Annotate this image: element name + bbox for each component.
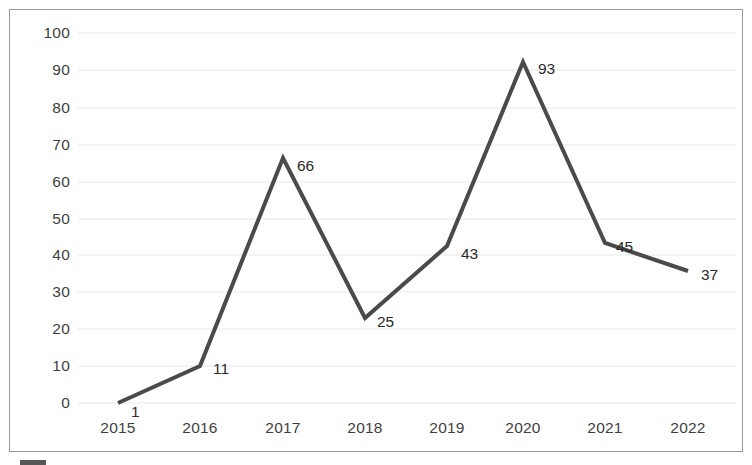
data-point-label: 25 (377, 313, 394, 331)
data-point-label: 93 (538, 60, 555, 78)
y-axis-tick-label: 100 (18, 24, 70, 42)
y-axis-tick-label: 50 (18, 210, 70, 228)
y-axis-tick-label: 30 (18, 283, 70, 301)
x-axis-tick-label: 2022 (670, 419, 705, 437)
y-axis-tick-label: 40 (18, 246, 70, 264)
data-point-label: 11 (213, 360, 229, 378)
x-axis-tick-label: 2017 (265, 419, 300, 437)
x-axis-tick-label: 2021 (587, 419, 622, 437)
y-axis-tick-label: 20 (18, 320, 70, 338)
y-axis-tick-label: 10 (18, 357, 70, 375)
legend (14, 458, 734, 465)
data-point-label: 43 (461, 245, 478, 263)
data-point-label: 45 (616, 238, 633, 256)
y-axis-tick-label: 90 (18, 61, 70, 79)
data-point-label: 37 (701, 266, 718, 284)
y-axis-tick-label: 0 (18, 394, 70, 412)
x-axis-tick-label: 2018 (347, 419, 382, 437)
x-axis-tick-label: 2019 (429, 419, 464, 437)
y-axis-tick-label: 80 (18, 99, 70, 117)
legend-swatch-icon (20, 460, 46, 465)
x-axis-tick-label: 2020 (505, 419, 540, 437)
data-point-label: 66 (297, 157, 314, 175)
chart-frame (9, 9, 743, 452)
data-point-label: 1 (131, 403, 140, 421)
y-axis-tick-label: 60 (18, 173, 70, 191)
x-axis-tick-label: 2016 (182, 419, 217, 437)
y-axis-tick-label: 70 (18, 136, 70, 154)
x-axis-tick-label: 2015 (100, 419, 135, 437)
